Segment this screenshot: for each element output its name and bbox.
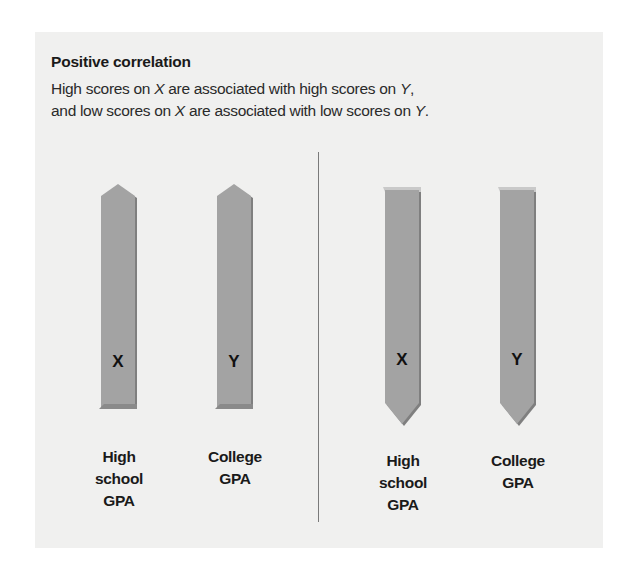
label-college-gpa-right: College GPA (473, 450, 563, 494)
arrow-letter-x-left: X (100, 352, 136, 372)
up-arrow-x (99, 184, 137, 409)
arrow-letter-y-left: Y (216, 352, 252, 372)
down-arrow-y (498, 187, 536, 426)
label-high-school-gpa-right: High school GPA (358, 450, 448, 516)
down-arrow-x (383, 187, 421, 426)
label-college-gpa-left: College GPA (190, 446, 280, 490)
label-high-school-gpa-left: High school GPA (74, 446, 164, 512)
arrow-letter-x-right: X (384, 350, 420, 370)
arrow-letter-y-right: Y (499, 350, 535, 370)
up-arrow-y (215, 184, 253, 409)
